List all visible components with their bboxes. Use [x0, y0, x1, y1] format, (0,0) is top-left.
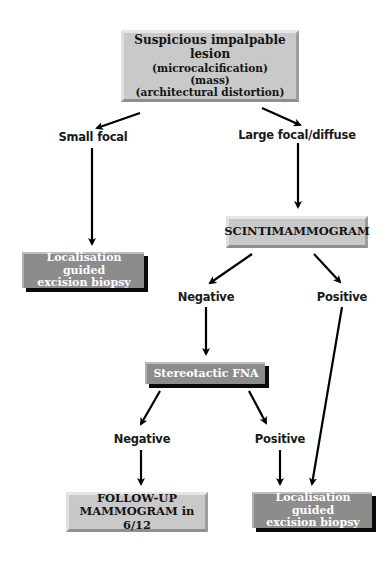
node-suspicious-lesion: Suspicious impalpable lesion (microcalci…	[121, 30, 299, 102]
label-fna-negative: Negative	[114, 432, 171, 446]
node-scinti-label: SCINTIMAMMOGRAM	[224, 225, 369, 238]
node-stereo-label: Stereotactic FNA	[153, 368, 258, 381]
node-root-title: Suspicious impalpable lesion	[124, 34, 296, 62]
node-root-subtitle-3: (architectural distortion)	[136, 86, 285, 98]
label-scinti-positive: Positive	[317, 290, 367, 304]
node-root-subtitle-1: (microcalcification)	[152, 62, 268, 74]
node-stereotactic-fna: Stereotactic FNA	[145, 362, 265, 384]
arrow-positive-to-biopsy	[312, 307, 342, 484]
label-scinti-negative: Negative	[178, 290, 235, 304]
node-biopsy-left-line2: excision biopsy	[37, 277, 130, 290]
node-biopsy-right: Localisation guided excision biopsy	[252, 492, 372, 528]
node-follow-up-mammogram: FOLLOW-UP MAMMOGRAM in 6/12	[66, 492, 208, 532]
node-biopsy-right-line2: excision biopsy	[266, 517, 359, 530]
label-large-focal-diffuse: Large focal/diffuse	[238, 128, 356, 142]
node-biopsy-right-line1: Localisation guided	[254, 492, 372, 517]
node-root-subtitle-2: (mass)	[190, 74, 230, 86]
node-followup-line2: MAMMOGRAM in 6/12	[69, 505, 205, 531]
label-small-focal: Small focal	[58, 130, 127, 144]
arrow-root-to-large-focal	[262, 108, 300, 125]
arrow-scinti-to-negative	[210, 254, 252, 283]
arrow-root-to-small-focal	[97, 113, 140, 128]
label-fna-positive: Positive	[255, 432, 305, 446]
node-biopsy-left-line1: Localisation guided	[24, 252, 144, 277]
node-scintimammogram: SCINTIMAMMOGRAM	[226, 216, 368, 248]
node-biopsy-left: Localisation guided excision biopsy	[22, 252, 144, 288]
arrow-fna-to-positive	[249, 391, 266, 423]
arrow-scinti-to-positive	[314, 254, 340, 282]
flowchart-canvas: Suspicious impalpable lesion (microcalci…	[0, 0, 386, 587]
arrow-fna-to-negative	[141, 391, 160, 424]
